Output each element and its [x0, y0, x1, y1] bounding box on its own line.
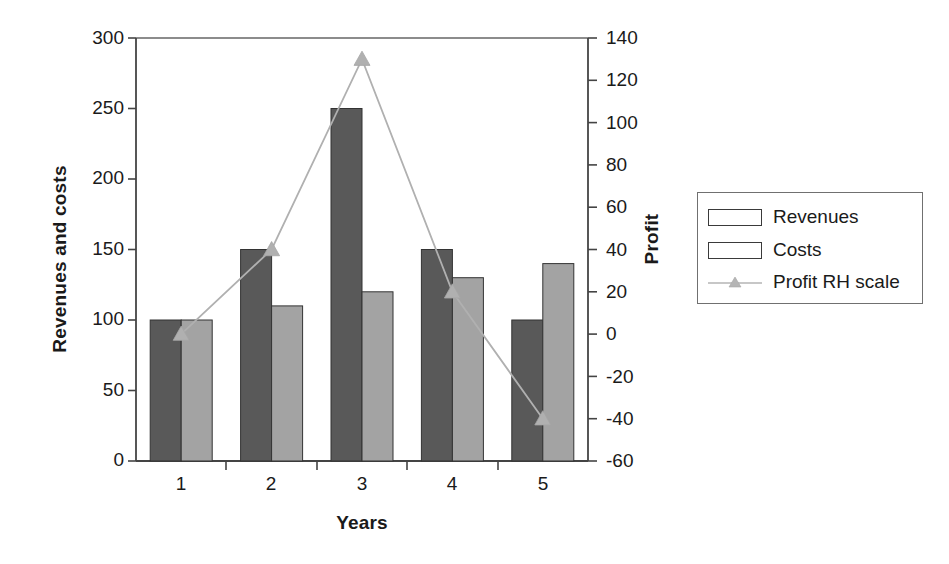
bar-costs-3 — [362, 292, 393, 461]
legend-label: Revenues — [773, 206, 859, 228]
legend-item-costs[interactable]: Costs — [708, 235, 822, 265]
bar-costs-1 — [181, 320, 212, 461]
legend: Revenues Costs Profit RH scale — [697, 192, 923, 304]
profit-line-marker-icon — [708, 274, 762, 291]
bar-revenues-1 — [150, 320, 181, 461]
legend-label: Profit RH scale — [773, 271, 900, 293]
costs-swatch-icon — [708, 242, 762, 259]
dual-axis-bar-line-chart: Revenues and costs Profit Years 300 250 … — [0, 0, 949, 564]
profit-marker-3 — [354, 51, 370, 65]
revenues-swatch-icon — [708, 209, 762, 226]
legend-label: Costs — [773, 239, 822, 261]
legend-item-profit[interactable]: Profit RH scale — [708, 267, 900, 297]
profit-marker-2 — [264, 242, 280, 256]
left-axis-ticks — [128, 38, 136, 461]
x-axis-ticks — [226, 461, 498, 470]
bar-revenues-5 — [512, 320, 543, 461]
bar-costs-5 — [543, 264, 574, 461]
bar-revenues-2 — [241, 250, 272, 462]
bar-costs-4 — [452, 278, 483, 461]
legend-item-revenues[interactable]: Revenues — [708, 202, 859, 232]
bars-layer — [150, 109, 574, 462]
bar-costs-2 — [272, 306, 303, 461]
right-axis-ticks — [588, 38, 597, 461]
bar-revenues-3 — [331, 109, 362, 462]
